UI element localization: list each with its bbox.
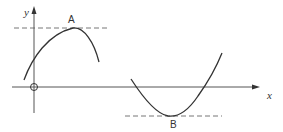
- curve-min-b: [131, 53, 222, 116]
- point-a-label: A: [68, 15, 75, 25]
- y-axis-arrow-icon: [32, 6, 37, 14]
- point-b-label: B: [170, 120, 177, 130]
- diagram-canvas: y x A B: [0, 0, 283, 132]
- y-axis-label: y: [24, 7, 29, 18]
- curve-max-a: [24, 28, 99, 80]
- x-axis-arrow-icon: [252, 85, 260, 90]
- x-axis-label: x: [267, 90, 272, 101]
- graph-svg: [0, 0, 283, 132]
